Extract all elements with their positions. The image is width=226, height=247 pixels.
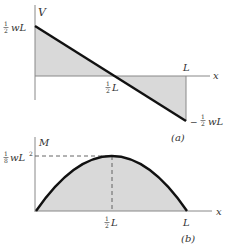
svg-text:2: 2 — [29, 150, 33, 157]
svg-text:wL: wL — [11, 22, 27, 33]
svg-text:2: 2 — [106, 87, 110, 94]
shear-end-label: L — [182, 62, 190, 73]
panel-b-caption: (b) — [181, 233, 195, 244]
svg-text:wL: wL — [208, 116, 224, 127]
shear-mid-label: 1 2 L — [106, 80, 120, 94]
panel-a-caption: (a) — [171, 132, 185, 143]
moment-max-label: 1 8 wL 2 — [4, 150, 34, 164]
beam-diagrams: V x 1 2 wL 1 2 L L − 1 2 wL (a) — [0, 0, 226, 247]
svg-text:1: 1 — [106, 80, 110, 87]
shear-y-axis-label: V — [38, 6, 47, 19]
svg-text:L: L — [111, 82, 119, 93]
svg-text:2: 2 — [105, 222, 109, 229]
shear-max-label: 1 2 wL — [4, 20, 27, 34]
svg-text:L: L — [110, 217, 118, 228]
svg-text:2: 2 — [201, 120, 205, 127]
moment-x-axis-label: x — [216, 206, 222, 217]
svg-text:1: 1 — [201, 113, 205, 120]
svg-text:1: 1 — [4, 20, 8, 27]
svg-text:8: 8 — [4, 157, 8, 164]
svg-text:−: − — [190, 117, 198, 127]
shear-x-axis-label: x — [213, 70, 219, 81]
moment-mid-label: 1 2 L — [105, 215, 119, 229]
moment-diagram: M x 1 8 wL 2 1 2 L L (b) — [4, 137, 223, 244]
moment-end-label: L — [182, 217, 190, 228]
svg-text:wL: wL — [10, 152, 26, 163]
svg-text:2: 2 — [4, 27, 8, 34]
shear-diagram: V x 1 2 wL 1 2 L L − 1 2 wL (a) — [4, 5, 224, 143]
svg-text:1: 1 — [105, 215, 109, 222]
svg-text:1: 1 — [4, 150, 8, 157]
shear-min-label: − 1 2 wL — [190, 113, 224, 127]
moment-y-axis-label: M — [38, 137, 50, 148]
